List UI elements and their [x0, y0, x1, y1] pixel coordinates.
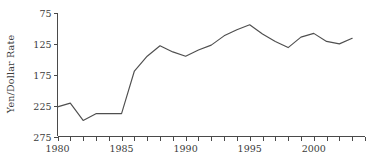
yen-dollar-rate-line-chart: 75125175225275 19801985199019952000 Yen/… — [0, 0, 381, 164]
x-axis-ticks — [59, 137, 366, 141]
data-series-line — [58, 25, 353, 121]
x-tick-label-2000: 2000 — [302, 143, 326, 154]
y-axis-tick-labels: 75125175225275 — [33, 8, 51, 143]
x-tick-label-1980: 1980 — [45, 143, 69, 154]
x-axis: 19801985199019952000 — [45, 137, 365, 154]
x-tick-label-1985: 1985 — [109, 143, 133, 154]
chart-figure: 75125175225275 19801985199019952000 Yen/… — [0, 0, 381, 164]
y-tick-label-75: 75 — [39, 8, 51, 19]
y-axis-label: Yen/Dollar Rate — [5, 35, 16, 115]
y-axis: 75125175225275 — [33, 8, 57, 143]
x-tick-label-1990: 1990 — [174, 143, 198, 154]
y-tick-label-125: 125 — [33, 39, 51, 50]
y-tick-label-175: 175 — [33, 70, 51, 81]
y-tick-label-225: 225 — [33, 101, 51, 112]
y-tick-label-275: 275 — [33, 132, 51, 143]
x-axis-tick-labels: 19801985199019952000 — [45, 143, 325, 154]
x-tick-label-1995: 1995 — [238, 143, 262, 154]
y-axis-ticks — [54, 14, 58, 138]
